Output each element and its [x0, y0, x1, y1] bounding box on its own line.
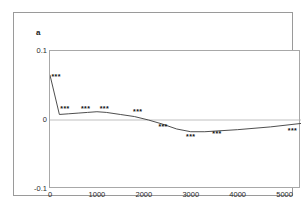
series-line-1 [50, 75, 301, 132]
plot-area: 0.10-0.1 010002000300040005000 *********… [49, 50, 300, 188]
y-tick-label-0: 0.1 [37, 47, 47, 55]
significance-marker-8: *** [212, 131, 221, 137]
x-tick-label-3: 3000 [182, 191, 199, 199]
x-tick-label-0: 0 [48, 191, 52, 199]
y-tick-label-1: 0 [43, 116, 47, 124]
plot-svg [50, 51, 301, 189]
significance-marker-1: *** [51, 74, 60, 80]
significance-marker-9: *** [288, 128, 297, 134]
significance-marker-3: *** [81, 106, 90, 112]
figure-screenshot: a 0.10-0.1 010002000300040005000 *******… [0, 0, 306, 208]
significance-marker-4: *** [100, 106, 109, 112]
panel-label: a [36, 28, 40, 38]
significance-marker-6: *** [158, 124, 167, 130]
figure-frame: a 0.10-0.1 010002000300040005000 *******… [13, 12, 293, 196]
x-tick-label-1: 1000 [89, 191, 106, 199]
x-tick-label-5: 5000 [276, 191, 293, 199]
significance-marker-5: *** [133, 109, 142, 115]
significance-marker-7: *** [186, 134, 195, 140]
x-tick-label-4: 4000 [229, 191, 246, 199]
significance-marker-2: *** [60, 106, 69, 112]
y-tick-label-2: -0.1 [34, 185, 47, 193]
data-series-line [50, 75, 301, 132]
x-tick-label-2: 2000 [135, 191, 152, 199]
